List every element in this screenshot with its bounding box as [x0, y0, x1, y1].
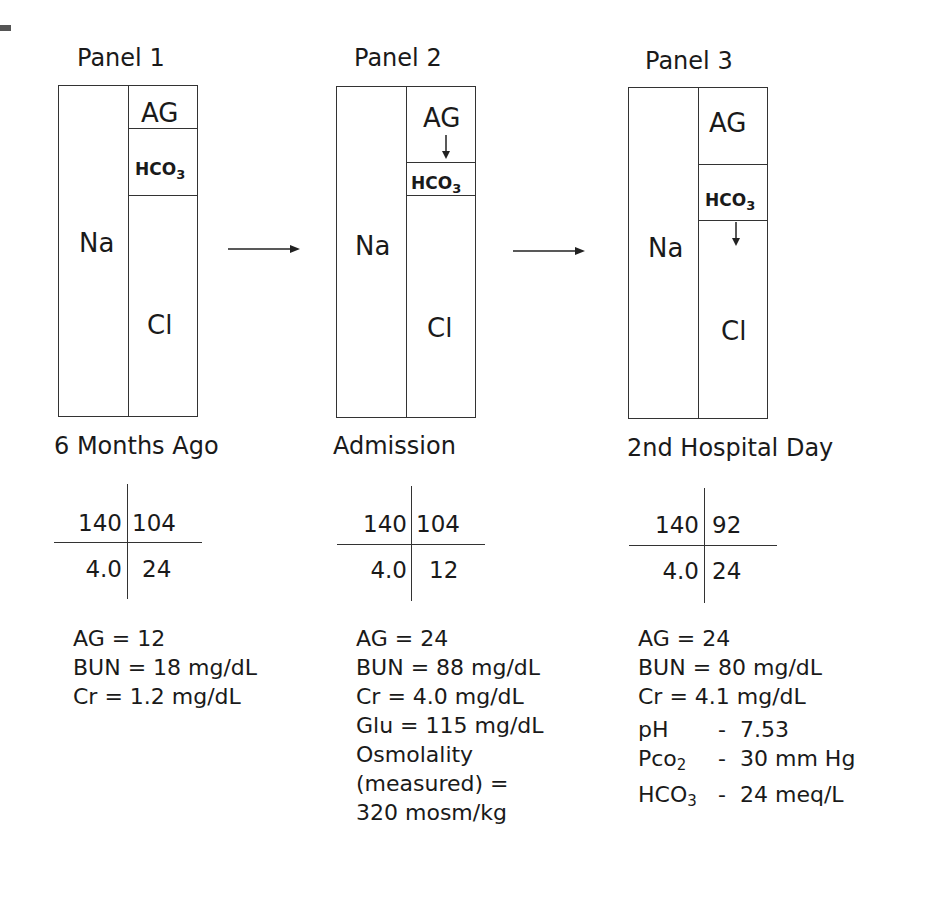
- potassium-value: 4.0: [85, 556, 122, 582]
- panel-2-caption: Admission: [333, 432, 456, 460]
- lab-bun: BUN = 88 mg/dL: [356, 653, 544, 682]
- hco3-compartment: HCO3: [411, 173, 461, 196]
- panel-3-diagram: Na AG HCO3 Cl: [628, 87, 768, 419]
- bicarbonate-value: 24: [142, 556, 171, 582]
- bicarbonate-value: 12: [429, 557, 458, 583]
- lab-cr: Cr = 4.0 mg/dL: [356, 682, 544, 711]
- lab-glucose: Glu = 115 mg/dL: [356, 711, 544, 740]
- lab-ag: AG = 24: [356, 624, 544, 653]
- divider: [698, 164, 768, 165]
- ag-compartment: AG: [709, 108, 746, 138]
- panel-3-caption: 2nd Hospital Day: [627, 434, 833, 462]
- cl-compartment: Cl: [721, 316, 746, 346]
- panel-1-electrolyte-grid: 140 104 4.0 24: [52, 484, 204, 602]
- ag-compartment: AG: [423, 103, 460, 133]
- panel-2-electrolyte-grid: 140 104 4.0 12: [337, 486, 489, 604]
- panel-1-labs: AG = 12 BUN = 18 mg/dL Cr = 1.2 mg/dL: [73, 624, 257, 711]
- panel-3-electrolyte-grid: 140 92 4.0 24: [629, 488, 781, 606]
- abg-ph: pH-7.53: [638, 715, 855, 744]
- lab-osmolality-label: Osmolality: [356, 740, 544, 769]
- corner-mark: [0, 25, 11, 31]
- abg-hco3: HCO3-24 meq/L: [638, 780, 855, 816]
- divider: [406, 162, 476, 163]
- divider: [128, 195, 198, 196]
- lab-cr: Cr = 4.1 mg/dL: [638, 682, 855, 711]
- potassium-value: 4.0: [370, 557, 407, 583]
- arrow-right-icon: [228, 243, 304, 255]
- chloride-value: 104: [132, 510, 176, 536]
- na-compartment: Na: [648, 233, 683, 263]
- lab-ag: AG = 12: [73, 624, 257, 653]
- cl-compartment: Cl: [427, 313, 452, 343]
- grid-hline: [54, 542, 202, 543]
- panel-1-caption: 6 Months Ago: [54, 432, 219, 460]
- panel-3-title: Panel 3: [645, 47, 733, 75]
- lab-osmolality-value: 320 mosm/kg: [356, 798, 544, 827]
- arrow-down-icon: [731, 222, 741, 248]
- panel-2-labs: AG = 24 BUN = 88 mg/dL Cr = 4.0 mg/dL Gl…: [356, 624, 544, 827]
- grid-hline: [629, 545, 777, 546]
- sodium-value: 140: [655, 512, 699, 538]
- panel-2-diagram: Na AG HCO3 Cl: [336, 86, 476, 418]
- sodium-value: 140: [363, 511, 407, 537]
- lab-bun: BUN = 80 mg/dL: [638, 653, 855, 682]
- ag-compartment: AG: [141, 98, 178, 128]
- hco3-compartment: HCO3: [135, 159, 185, 182]
- bicarbonate-value: 24: [712, 558, 741, 584]
- potassium-value: 4.0: [662, 558, 699, 584]
- panel-1-diagram: Na AG HCO3 Cl: [58, 85, 198, 417]
- lab-osmolality-measured: (measured) =: [356, 769, 544, 798]
- grid-hline: [337, 544, 485, 545]
- na-compartment: Na: [79, 228, 114, 258]
- divider: [406, 195, 476, 196]
- lab-bun: BUN = 18 mg/dL: [73, 653, 257, 682]
- arrow-down-icon: [441, 135, 451, 161]
- cl-compartment: Cl: [147, 310, 172, 340]
- arrow-right-icon: [513, 245, 589, 257]
- panel-1-title: Panel 1: [77, 44, 165, 72]
- abg-pco2: Pco2-30 mm Hg: [638, 744, 855, 780]
- panel-2-title: Panel 2: [354, 44, 442, 72]
- divider: [698, 220, 768, 221]
- panel-3-labs: AG = 24 BUN = 80 mg/dL Cr = 4.1 mg/dL pH…: [638, 624, 855, 816]
- divider: [698, 88, 699, 418]
- chloride-value: 104: [416, 511, 460, 537]
- sodium-value: 140: [78, 510, 122, 536]
- na-compartment: Na: [355, 231, 390, 261]
- lab-ag: AG = 24: [638, 624, 855, 653]
- divider: [406, 87, 407, 417]
- divider: [128, 128, 198, 129]
- lab-cr: Cr = 1.2 mg/dL: [73, 682, 257, 711]
- divider: [128, 86, 129, 416]
- chloride-value: 92: [712, 512, 741, 538]
- hco3-compartment: HCO3: [705, 190, 755, 213]
